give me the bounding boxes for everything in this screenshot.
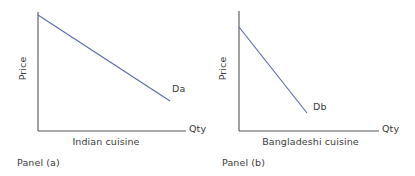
panel-b-caption: Panel (b)	[222, 157, 265, 168]
panel-b-y-axis-label: Price	[217, 46, 228, 92]
panel-b: Price Bangladeshi cuisine Qty Db Panel (…	[205, 0, 410, 176]
panel-b-curve-label-db: Db	[313, 101, 327, 112]
panel-a-qty-tip-label: Qty	[189, 123, 206, 134]
panel-b-qty-tip-label: Qty	[382, 123, 399, 134]
panel-a-y-axis-label: Price	[17, 46, 28, 92]
demand-curve-db	[239, 27, 307, 113]
panel-a-caption: Panel (a)	[17, 157, 60, 168]
demand-curves-figure: Price Indian cuisine Qty Da Panel (a) Pr…	[0, 0, 415, 176]
demand-curve-da	[38, 15, 170, 101]
panel-b-x-axis-label: Bangladeshi cuisine	[242, 136, 379, 147]
panel-b-plot	[205, 0, 410, 176]
panel-a-curve-label-da: Da	[172, 83, 185, 94]
panel-a: Price Indian cuisine Qty Da Panel (a)	[0, 0, 205, 176]
panel-a-x-axis-label: Indian cuisine	[48, 136, 164, 147]
